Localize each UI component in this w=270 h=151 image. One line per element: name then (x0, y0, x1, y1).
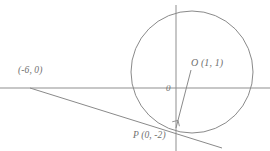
label-point-p: P (0, -2) (133, 131, 166, 141)
circle (131, 11, 253, 133)
label-center-o: O (1, 1) (191, 58, 223, 68)
geometry-figure: (-6, 0) O (1, 1) 0 P (0, -2) (0, 0, 270, 151)
label-point-a: (-6, 0) (18, 66, 42, 76)
radius-segment-op (176, 70, 191, 128)
tangent-line (30, 88, 222, 148)
label-origin: 0 (166, 84, 171, 93)
geometry-canvas (0, 0, 270, 151)
